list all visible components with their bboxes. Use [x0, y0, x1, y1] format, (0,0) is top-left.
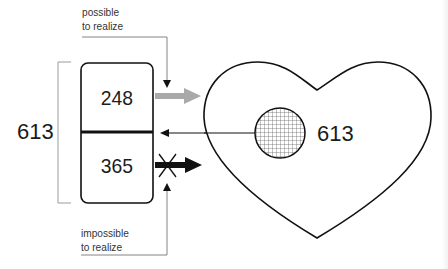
heart-shape: [204, 62, 431, 238]
impossible-label-line1: impossible: [81, 228, 129, 240]
impossible-label-line2: to realize: [81, 242, 122, 254]
total-bracket: [58, 62, 71, 203]
black-arrow-right-blocked: [155, 154, 202, 177]
possible-label-line1: possible: [82, 7, 119, 19]
box-lower-value: 365: [84, 155, 150, 176]
possible-label-line2: to realize: [82, 21, 123, 33]
gray-arrow-right: [155, 88, 201, 104]
hatched-circle: [254, 107, 306, 159]
diagram-graphics: [0, 0, 448, 269]
heart-circle-value: 613: [317, 123, 354, 145]
split-box: [81, 63, 153, 203]
diagram-canvas: possible to realize impossible to realiz…: [0, 0, 448, 269]
total-left-value: 613: [17, 121, 54, 143]
box-upper-value: 248: [84, 87, 150, 108]
